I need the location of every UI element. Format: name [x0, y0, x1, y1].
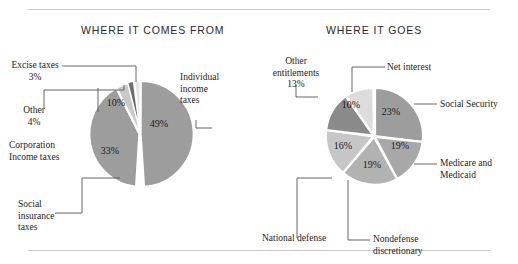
- label-social-security: Social Security: [440, 99, 516, 111]
- value-net-interest: 10%: [336, 99, 366, 110]
- label-nondefense-discretionary: Nondefense discretionary: [373, 234, 447, 257]
- value-social-security: 23%: [376, 106, 406, 117]
- value-individual-income-taxes: 49%: [144, 118, 174, 129]
- leader-excise-taxes: [62, 66, 136, 82]
- value-social-insurance-taxes: 33%: [95, 145, 125, 156]
- two-pie-chart-figure: WHERE IT COMES FROM WHERE IT GOES: [0, 0, 518, 264]
- label-medicare-medicaid: Medicare and Medicaid: [440, 158, 514, 181]
- label-individual-income-taxes: Individual income taxes: [180, 72, 242, 107]
- label-corporation-income-taxes: Corporation Income taxes: [9, 140, 97, 163]
- label-national-defense: National defense: [262, 233, 352, 245]
- label-other-entitlements: Other entitlements 13%: [262, 56, 330, 91]
- label-net-interest: Net interest: [387, 62, 457, 74]
- leader-nondefense: [348, 180, 370, 240]
- label-excise-taxes: Excise taxes 3%: [4, 60, 66, 83]
- label-social-insurance-taxes: Social insurance taxes: [18, 199, 88, 234]
- leader-individual: [196, 120, 212, 128]
- leader-national-defense: [297, 178, 332, 238]
- value-nondefense-discretionary: 19%: [357, 159, 387, 170]
- label-other: Other 4%: [12, 105, 56, 128]
- value-corporation-income-taxes: 10%: [101, 97, 131, 108]
- value-national-defense: 16%: [328, 140, 358, 151]
- leader-other: [44, 85, 124, 90]
- value-medicare-medicaid: 19%: [385, 140, 415, 151]
